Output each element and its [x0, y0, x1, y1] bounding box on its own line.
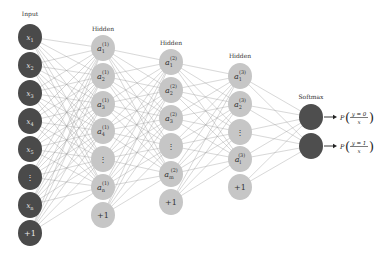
layer-label-input: Input: [22, 10, 39, 18]
hidden2-node: a1(2): [159, 49, 183, 75]
layer-label-hidden3: Hidden: [229, 52, 251, 59]
svg-text:): ): [369, 110, 374, 125]
hidden1-node: +1: [91, 202, 115, 228]
hidden1-node: a4(1): [91, 118, 115, 144]
fraction-numerator: y = 0: [351, 111, 367, 118]
input-node: xn: [18, 192, 42, 218]
hidden2-node: ⋮: [159, 133, 183, 159]
fraction-denominator: x: [357, 148, 361, 154]
neuron-label: ⋮: [99, 155, 107, 164]
neuron-label: ⋮: [236, 128, 244, 137]
svg-text:(: (: [345, 110, 350, 125]
hidden3-node: a1(3): [228, 63, 252, 89]
input-node: ⋮: [18, 164, 42, 190]
hidden2-node: +1: [159, 189, 183, 215]
hidden2-node: a2(2): [159, 77, 183, 103]
hidden3-node: al(3): [228, 146, 252, 172]
output-probability-1: P(y = 1x): [324, 139, 374, 155]
hidden1-node: a2(1): [91, 63, 115, 89]
softmax-node: [299, 133, 323, 159]
input-node: x1: [18, 24, 42, 50]
input-node: +1: [18, 220, 42, 246]
layer-label-hidden2: Hidden: [160, 39, 182, 46]
softmax-node: [299, 104, 323, 130]
fraction-numerator: y = 1: [351, 140, 367, 147]
arrow-head-icon: [333, 115, 337, 119]
hidden1-node: a1(1): [91, 35, 115, 61]
input-node: x5: [18, 136, 42, 162]
svg-text:): ): [369, 139, 374, 154]
fraction-denominator: x: [357, 119, 361, 125]
arrow-head-icon: [333, 144, 337, 148]
neuron-circle: [299, 104, 323, 130]
svg-text:(: (: [345, 139, 350, 154]
neuron-circle: [299, 133, 323, 159]
hidden3-node: a2(3): [228, 91, 252, 117]
neuron-label: +1: [24, 229, 36, 238]
input-node: x2: [18, 52, 42, 78]
input-node: x4: [18, 108, 42, 134]
output-probability-0: P(y = 0x): [324, 110, 374, 126]
neural-network-diagram: x1x2x3x4x5⋮xn+1a1(1)a2(1)a3(1)a4(1)⋮an(1…: [0, 0, 383, 256]
layer-label-hidden1: Hidden: [92, 25, 114, 32]
connection-edge: [30, 48, 103, 93]
connection-edge: [30, 48, 103, 121]
hidden1-node: ⋮: [91, 146, 115, 172]
hidden3-node: +1: [228, 174, 252, 200]
neuron-label: +1: [97, 211, 109, 220]
neuron-label: +1: [165, 198, 177, 207]
layer-label-softmax: Softmax: [298, 93, 324, 100]
neuron-label: +1: [234, 183, 246, 192]
input-node: x3: [18, 80, 42, 106]
hidden2-node: am(2): [159, 161, 183, 187]
hidden2-node: a3(2): [159, 105, 183, 131]
neuron-label: ⋮: [26, 173, 34, 182]
hidden3-node: ⋮: [228, 119, 252, 145]
hidden1-node: an(1): [91, 174, 115, 200]
neuron-label: ⋮: [167, 142, 175, 151]
output-probabilities: P(y = 0x)P(y = 1x): [324, 110, 374, 155]
hidden1-node: a3(1): [91, 91, 115, 117]
